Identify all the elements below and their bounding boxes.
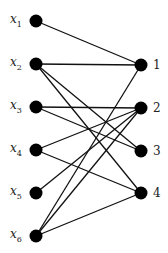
edge-x1-1 — [36, 21, 141, 65]
node-1 — [135, 59, 148, 72]
node-x6 — [30, 230, 43, 243]
edges — [36, 21, 141, 236]
label-4: 4 — [153, 186, 161, 200]
node-4 — [135, 187, 148, 200]
node-x1 — [30, 15, 43, 28]
label-x1: x1 — [10, 12, 22, 29]
edge-x6-1 — [36, 65, 141, 236]
label-3: 3 — [153, 144, 161, 158]
label-x3: x3 — [10, 98, 22, 115]
label-2: 2 — [153, 101, 161, 115]
edge-x3-2 — [36, 107, 141, 108]
label-x5: x5 — [10, 184, 22, 201]
node-x5 — [30, 187, 43, 200]
label-x4: x4 — [10, 141, 22, 158]
node-x3 — [30, 101, 43, 114]
label-1: 1 — [153, 58, 161, 72]
edge-x6-4 — [36, 193, 141, 236]
node-x4 — [30, 144, 43, 157]
label-x6: x6 — [10, 227, 22, 244]
bipartite-graph: x1x2x3x4x5x61234 — [0, 0, 168, 253]
node-2 — [135, 102, 148, 115]
label-x2: x2 — [10, 55, 22, 72]
edge-x2-1 — [36, 64, 141, 65]
edge-x6-2 — [36, 108, 141, 236]
node-x2 — [30, 58, 43, 71]
node-3 — [135, 145, 148, 158]
